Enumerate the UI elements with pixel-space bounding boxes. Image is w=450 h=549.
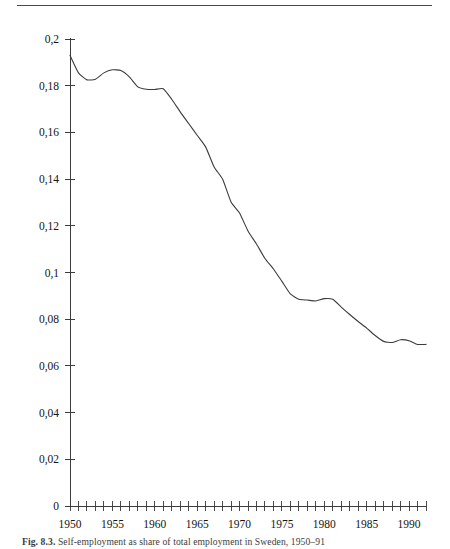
x-tick-label: 1985: [355, 518, 378, 530]
x-tick-label: 1965: [186, 518, 209, 530]
y-tick-label: 0,04: [39, 407, 59, 420]
y-axis-tick-labels: 00,020,040,060,080,10,120,140,160,180,2: [39, 33, 59, 512]
y-tick-label: 0,08: [39, 313, 59, 326]
y-tick-label: 0,12: [39, 220, 59, 233]
figure-caption-text: Self-employment as share of total employ…: [58, 536, 325, 547]
x-tick-label: 1955: [101, 518, 124, 530]
y-tick-label: 0,1: [45, 267, 60, 280]
x-tick-label: 1950: [59, 518, 82, 530]
figure-caption: Fig. 8.3. Self-employment as share of to…: [22, 536, 434, 548]
line-chart: 00,020,040,060,080,10,120,140,160,180,2 …: [0, 0, 450, 549]
y-tick-label: 0,2: [45, 33, 60, 46]
x-tick-label: 1960: [143, 518, 166, 530]
x-tick-label: 1990: [398, 518, 421, 530]
y-tick-label: 0,02: [39, 453, 59, 466]
y-tick-label: 0: [53, 500, 59, 512]
y-tick-label: 0,14: [39, 173, 59, 186]
x-tick-label: 1975: [270, 518, 293, 530]
x-tick-label: 1980: [313, 518, 336, 530]
data-series-line: [70, 55, 426, 344]
figure-caption-label: Fig. 8.3.: [22, 536, 55, 547]
figure-container: 00,020,040,060,080,10,120,140,160,180,2 …: [0, 0, 450, 549]
y-tick-label: 0,16: [39, 126, 59, 139]
y-tick-label: 0,18: [39, 80, 59, 93]
x-axis-tick-labels: 195019551960196519701975198019851990: [59, 518, 421, 530]
y-tick-label: 0,06: [39, 360, 59, 373]
x-tick-label: 1970: [228, 518, 251, 530]
